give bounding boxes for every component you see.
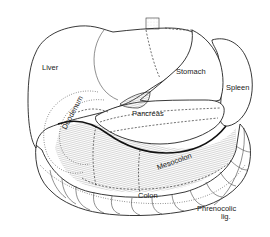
label-phrenocolic-lig: lig.	[221, 212, 231, 221]
label-stomach: Stomach	[176, 67, 206, 76]
label-pancreas: Pancreas	[132, 109, 164, 118]
anatomy-diagram: Liver Stomach Spleen Duodenum Pancreas M…	[0, 0, 270, 237]
label-liver: Liver	[42, 63, 59, 72]
label-colon: Colon	[138, 191, 158, 200]
label-spleen: Spleen	[226, 83, 249, 92]
